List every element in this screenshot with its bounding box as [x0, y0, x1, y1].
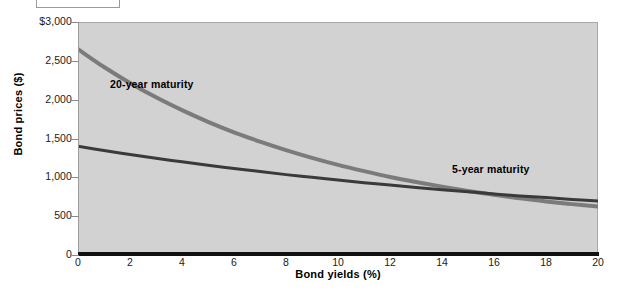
x-axis-tick-label: 20	[578, 256, 618, 268]
x-axis-tick-label: 18	[526, 256, 566, 268]
y-axis-tick	[70, 216, 79, 217]
series-label-5-year: 5-year maturity	[452, 163, 530, 175]
series-curve-20-year	[78, 49, 598, 206]
x-axis-title: Bond yields (%)	[78, 268, 598, 280]
y-axis-tick	[70, 100, 79, 101]
y-axis-tick	[70, 139, 79, 140]
y-axis-tick	[70, 61, 79, 62]
x-axis-tick-label: 0	[58, 256, 98, 268]
y-axis-title: Bond prices ($)	[12, 44, 24, 184]
x-axis-tick-label: 16	[474, 256, 514, 268]
series-label-20-year: 20-year maturity	[110, 78, 194, 90]
y-tick-labels: 05001,0001,5002,0002,500$3,000	[0, 0, 72, 290]
x-axis-tick-label: 6	[214, 256, 254, 268]
x-axis-tick-label: 4	[162, 256, 202, 268]
x-axis-tick-label: 12	[370, 256, 410, 268]
y-axis-tick	[70, 255, 79, 256]
plot-curves	[78, 22, 598, 255]
y-axis-tick-label: 500	[10, 209, 72, 221]
y-axis-tick-label: $3,000	[10, 15, 72, 27]
x-axis-tick-label: 2	[110, 256, 150, 268]
y-axis-tick	[70, 177, 79, 178]
x-axis-tick-label: 14	[422, 256, 462, 268]
y-axis-tick	[70, 22, 79, 23]
x-axis-tick-label: 8	[266, 256, 306, 268]
bond-price-yield-chart: 05001,0001,5002,0002,500$3,000 024681012…	[0, 0, 618, 290]
x-axis-tick-label: 10	[318, 256, 358, 268]
